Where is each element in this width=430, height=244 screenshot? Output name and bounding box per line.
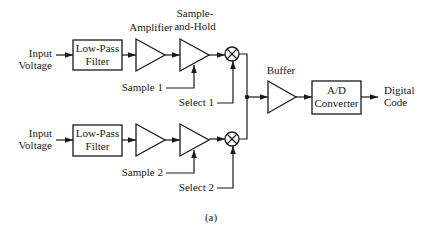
select-2-label: Select 2 (179, 181, 214, 193)
low-pass-filter-1-line1: Low-Pass (76, 42, 119, 54)
select-1-control-line (217, 61, 233, 103)
select-1-label: Select 1 (179, 96, 214, 108)
select-switch-1-icon (225, 47, 239, 61)
buffer-label: Buffer (267, 64, 296, 76)
low-pass-filter-1-line2: Filter (86, 55, 110, 67)
input-voltage-label-1-line2: Voltage (19, 59, 53, 71)
amplifier-triangle-1 (136, 39, 165, 71)
input-voltage-label-2-line2: Voltage (19, 139, 53, 151)
input-voltage-label-2-line1: Input (29, 127, 52, 139)
sample-hold-label-line2: and-Hold (174, 20, 216, 32)
input-voltage-label-1-line1: Input (29, 47, 52, 59)
low-pass-filter-2-line1: Low-Pass (76, 127, 119, 139)
output-stage: Buffer A/D Converter Digital Code (245, 64, 415, 114)
mux-2-to-bus-line (239, 97, 247, 139)
adc-label-line1: A/D (327, 84, 346, 96)
channel-1: Input Voltage Low-Pass Filter Amplifier … (19, 7, 247, 108)
select-switch-2-icon (225, 132, 239, 146)
figure-caption: (a) (205, 211, 218, 224)
digital-code-label-line2: Code (384, 96, 407, 108)
adc-label-line2: Converter (315, 97, 359, 109)
amplifier-triangle-2 (136, 124, 165, 156)
mux-1-to-bus-line (239, 54, 247, 97)
low-pass-filter-2-line2: Filter (86, 140, 110, 152)
digital-code-label-line1: Digital (384, 84, 415, 96)
channel-2: Input Voltage Low-Pass Filter Sample 2 S… (19, 97, 247, 193)
sample-hold-label-line1: Sample- (177, 7, 214, 19)
amplifier-label: Amplifier (129, 21, 173, 33)
sample-2-label: Sample 2 (122, 166, 163, 178)
block-diagram: Input Voltage Low-Pass Filter Amplifier … (0, 0, 430, 244)
buffer-triangle (268, 81, 296, 113)
sample-1-label: Sample 1 (122, 81, 163, 93)
select-2-control-line (217, 146, 233, 188)
